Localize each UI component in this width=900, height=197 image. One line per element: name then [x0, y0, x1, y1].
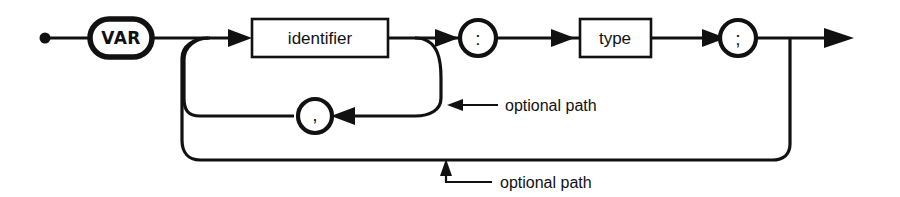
- terminal-semicolon-label: ;: [735, 28, 740, 49]
- start-dot: [40, 33, 51, 44]
- nonterminal-type-label: type: [599, 29, 631, 48]
- leader-arrow-annot-comma-loop: [447, 99, 463, 111]
- arrow-into-comma: [331, 107, 355, 125]
- terminal-colon-label: :: [475, 28, 480, 49]
- terminal-var-label: VAR: [101, 28, 141, 48]
- arrow-into-colon: [435, 29, 459, 47]
- syntax-diagram-canvas: VAR identifier : type ; , optional path …: [0, 0, 900, 197]
- annotation-optional-path-outer: optional path: [500, 174, 592, 191]
- nonterminal-identifier-label: identifier: [288, 29, 353, 48]
- terminal-comma-label: ,: [312, 104, 317, 125]
- arrow-into-type: [551, 29, 575, 47]
- arrow-into-identifier: [228, 29, 252, 47]
- leader-line-annot-outer-loop: [446, 166, 492, 182]
- annotation-optional-path-comma: optional path: [505, 97, 597, 114]
- railroad-diagram: VAR identifier : type ; , optional path …: [0, 0, 900, 197]
- arrow-exit: [824, 28, 854, 48]
